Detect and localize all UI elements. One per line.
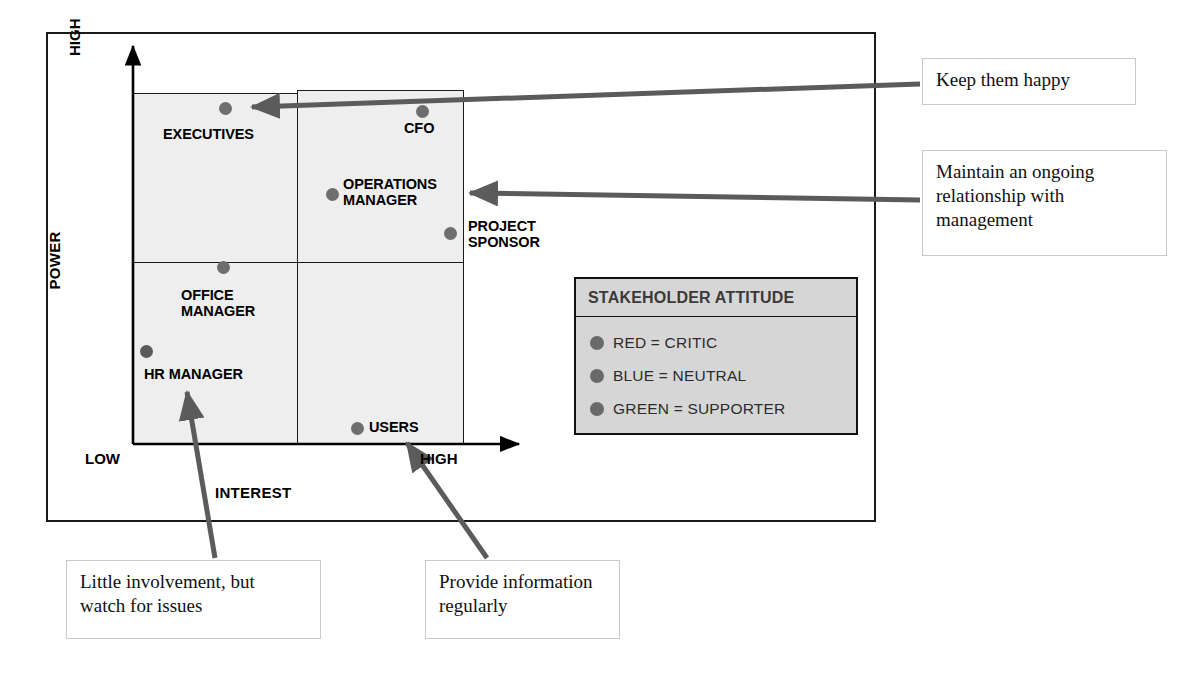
callout-keep-them-happy: Keep them happy [922, 58, 1136, 105]
stakeholder-label-project-sponsor: PROJECT SPONSOR [468, 219, 540, 250]
legend-swatch-red-icon [590, 336, 604, 350]
axis-tick-interest-high: HIGH [420, 450, 458, 467]
legend-items: RED = CRITIC BLUE = NEUTRAL GREEN = SUPP… [576, 317, 856, 425]
legend-item-blue: BLUE = NEUTRAL [590, 359, 856, 392]
callout-maintain-relationship: Maintain an ongoing relationship with ma… [922, 150, 1167, 256]
stakeholder-dot-operations-manager[interactable] [326, 188, 339, 201]
stakeholder-label-operations-manager: OPERATIONS MANAGER [343, 177, 437, 208]
legend-item-green: GREEN = SUPPORTER [590, 392, 856, 425]
stakeholder-label-office-manager: OFFICE MANAGER [181, 288, 255, 319]
quadrant-high-power-low-interest [133, 93, 298, 263]
quadrant-low-power-high-interest [297, 262, 464, 444]
legend-swatch-blue-icon [590, 369, 604, 383]
diagram-canvas: POWER INTEREST HIGH LOW HIGH EXECUTIVES … [0, 0, 1204, 676]
stakeholder-dot-users[interactable] [351, 422, 364, 435]
stakeholder-label-users: USERS [369, 420, 418, 436]
axis-label-power: POWER [46, 201, 63, 321]
axis-label-interest: INTEREST [215, 484, 292, 501]
axis-tick-power-high: HIGH [66, 19, 83, 57]
legend-swatch-green-icon [590, 402, 604, 416]
stakeholder-dot-office-manager[interactable] [217, 261, 230, 274]
stakeholder-dot-hr-manager[interactable] [140, 345, 153, 358]
stakeholder-dot-executives[interactable] [219, 102, 232, 115]
callout-little-involvement: Little involvement, but watch for issues [66, 560, 321, 639]
legend-label-red: RED = CRITIC [613, 334, 717, 352]
callout-provide-information: Provide information regularly [425, 560, 620, 639]
axis-tick-interest-low: LOW [85, 450, 120, 467]
stakeholder-dot-project-sponsor[interactable] [444, 227, 457, 240]
stakeholder-label-cfo: CFO [404, 121, 434, 137]
legend-title: STAKEHOLDER ATTITUDE [576, 279, 856, 317]
stakeholder-dot-cfo[interactable] [416, 105, 429, 118]
legend-stakeholder-attitude: STAKEHOLDER ATTITUDE RED = CRITIC BLUE =… [574, 277, 858, 435]
legend-label-green: GREEN = SUPPORTER [613, 400, 785, 418]
legend-label-blue: BLUE = NEUTRAL [613, 367, 746, 385]
legend-item-red: RED = CRITIC [590, 326, 856, 359]
stakeholder-label-hr-manager: HR MANAGER [144, 367, 243, 383]
stakeholder-label-executives: EXECUTIVES [163, 127, 254, 143]
